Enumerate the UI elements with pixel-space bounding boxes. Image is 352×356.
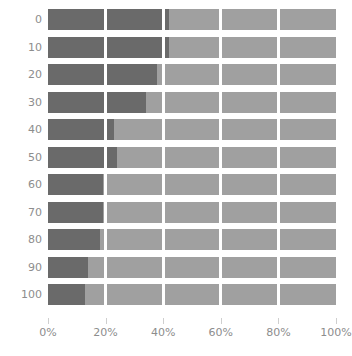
bar-segment-light xyxy=(88,257,336,278)
bar-segment-light xyxy=(103,202,336,223)
x-tick-label: 20% xyxy=(93,326,117,339)
x-tick-label: 60% xyxy=(209,326,233,339)
x-tick-mark xyxy=(278,318,279,324)
bar-segment-dark xyxy=(48,92,146,113)
bar-segment-dark xyxy=(48,229,100,250)
bar-segment-dark xyxy=(48,9,169,30)
bar-row xyxy=(48,229,336,250)
bar-row xyxy=(48,174,336,195)
bar-segment-light xyxy=(100,229,336,250)
bar-segment-dark xyxy=(48,147,117,168)
x-tick-label: 80% xyxy=(266,326,290,339)
y-tick-label: 100 xyxy=(21,284,42,305)
x-tick-label: 0% xyxy=(39,326,56,339)
x-tick-mark xyxy=(106,318,107,324)
y-tick-label: 90 xyxy=(28,257,42,278)
bar-segment-light xyxy=(114,119,336,140)
bar-segment-light xyxy=(103,174,336,195)
bar-segment-dark xyxy=(48,284,85,305)
x-tick-mark xyxy=(48,318,49,324)
x-tick-mark xyxy=(336,318,337,324)
bar-row xyxy=(48,37,336,58)
y-tick-label: 20 xyxy=(28,64,42,85)
y-tick-label: 40 xyxy=(28,119,42,140)
bar-segment-dark xyxy=(48,174,103,195)
bar-segment-dark xyxy=(48,37,169,58)
bar-segment-light xyxy=(169,37,336,58)
bar-row xyxy=(48,202,336,223)
y-tick-label: 10 xyxy=(28,37,42,58)
bar-segment-dark xyxy=(48,257,88,278)
bar-segment-light xyxy=(85,284,336,305)
y-tick-label: 0 xyxy=(35,9,42,30)
x-tick-mark xyxy=(221,318,222,324)
bar-row xyxy=(48,64,336,85)
plot-area xyxy=(48,9,336,314)
bar-row xyxy=(48,257,336,278)
bar-segment-light xyxy=(157,64,336,85)
y-tick-label: 70 xyxy=(28,202,42,223)
y-tick-label: 30 xyxy=(28,92,42,113)
x-tick-label: 100% xyxy=(320,326,351,339)
bar-row xyxy=(48,92,336,113)
bar-segment-dark xyxy=(48,202,103,223)
bar-row xyxy=(48,9,336,30)
bar-segment-light xyxy=(117,147,336,168)
bar-segment-light xyxy=(146,92,336,113)
bar-segment-dark xyxy=(48,119,114,140)
bar-row xyxy=(48,284,336,305)
bar-segment-dark xyxy=(48,64,157,85)
x-tick-mark xyxy=(163,318,164,324)
clipped-title-strip xyxy=(0,0,349,8)
y-tick-label: 50 xyxy=(28,147,42,168)
x-tick-label: 40% xyxy=(151,326,175,339)
y-axis: 0102030405060708090100 xyxy=(0,9,42,314)
x-axis: 0%20%40%60%80%100% xyxy=(48,314,336,348)
bar-row xyxy=(48,119,336,140)
bar-segment-light xyxy=(169,9,336,30)
y-tick-label: 60 xyxy=(28,174,42,195)
y-tick-label: 80 xyxy=(28,229,42,250)
bar-row xyxy=(48,147,336,168)
